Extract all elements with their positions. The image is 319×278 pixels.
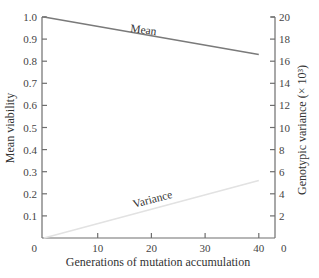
right-y-tick-label: 10 <box>279 122 291 134</box>
x-tick-label: 20 <box>146 242 158 254</box>
x-tick-label: 40 <box>253 242 265 254</box>
right-y-tick-label: 18 <box>279 33 291 45</box>
right-y-tick-label: 4 <box>279 188 285 200</box>
right-y-tick-label: 12 <box>279 99 290 111</box>
right-y-tick-label: 8 <box>279 144 285 156</box>
right-y-tick-label: 2 <box>279 210 285 222</box>
right-origin-label: 0 <box>281 242 287 254</box>
left-y-tick-label: 0.6 <box>23 99 37 111</box>
left-y-tick-label: 0.4 <box>23 144 37 156</box>
left-origin-label: 0 <box>32 242 38 254</box>
variance-series-line <box>44 181 259 238</box>
chart: 0.10.20.30.40.50.60.70.80.91.00 24681012… <box>0 0 319 278</box>
left-y-ticks: 0.10.20.30.40.50.60.70.80.91.00 <box>23 11 47 254</box>
right-y-tick-label: 20 <box>279 11 291 23</box>
x-tick-label: 30 <box>200 242 212 254</box>
x-tick-label: 10 <box>92 242 104 254</box>
mean-label: Mean <box>130 22 158 37</box>
right-y-axis-title: Genotypic variance (× 10³) <box>295 65 309 195</box>
left-y-tick-label: 1.0 <box>23 11 37 23</box>
x-axis-title: Generations of mutation accumulation <box>66 255 250 269</box>
left-y-axis-title: Mean viability <box>3 93 17 163</box>
left-y-tick-label: 0.2 <box>23 188 37 200</box>
axes <box>42 17 275 238</box>
left-y-tick-label: 0.9 <box>23 33 37 45</box>
variance-label: Variance <box>131 188 173 210</box>
left-y-tick-label: 0.5 <box>23 122 37 134</box>
left-y-tick-label: 0.1 <box>23 210 37 222</box>
right-y-tick-label: 6 <box>279 166 285 178</box>
left-y-tick-label: 0.7 <box>23 77 37 89</box>
x-ticks: 10203040 <box>92 233 265 254</box>
right-y-ticks: 24681012141618200 <box>270 11 291 254</box>
left-y-tick-label: 0.8 <box>23 55 37 67</box>
right-y-tick-label: 14 <box>279 77 291 89</box>
right-y-tick-label: 16 <box>279 55 291 67</box>
left-y-tick-label: 0.3 <box>23 166 37 178</box>
